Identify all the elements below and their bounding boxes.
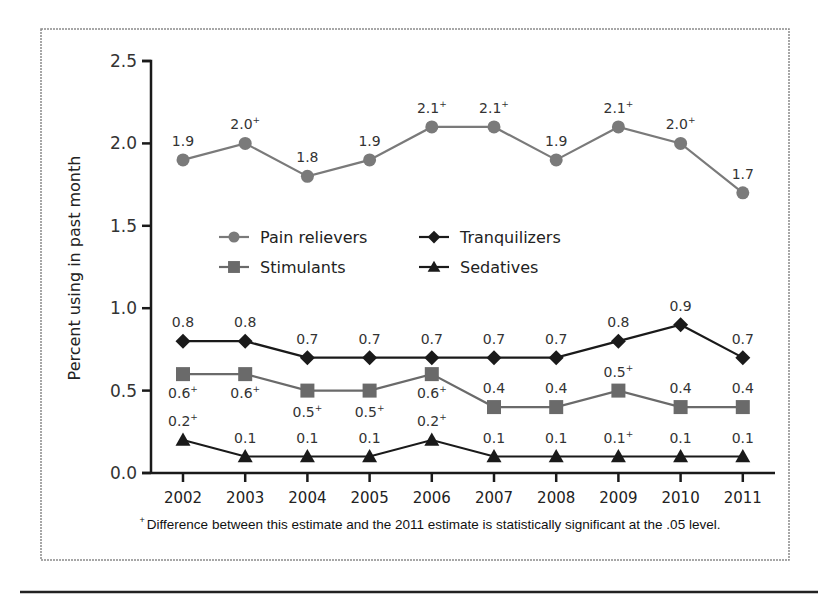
diamond-marker-icon (362, 350, 377, 365)
diamond-marker-icon (424, 350, 439, 365)
data-label: 0.5+ (355, 403, 385, 420)
x-tick-label: 2002 (164, 489, 202, 507)
circle-marker-icon (177, 153, 190, 166)
x-tick-label: 2011 (724, 489, 762, 507)
data-label: 1.9 (545, 133, 567, 149)
data-label: 0.1 (545, 430, 567, 446)
x-tick-label: 2005 (351, 489, 389, 507)
data-label: 2.0+ (666, 115, 696, 132)
footnote-symbol: + (140, 515, 145, 525)
significance-marker: + (439, 412, 447, 422)
series-pain-relievers (177, 120, 750, 199)
significance-marker: + (688, 115, 696, 125)
data-label: 0.7 (483, 331, 505, 347)
x-tick-label: 2004 (288, 489, 326, 507)
x-tick-label: 2008 (537, 489, 575, 507)
series-line (183, 440, 743, 456)
footnote-text: Difference between this estimate and the… (147, 517, 721, 532)
data-label: 1.8 (296, 149, 318, 165)
square-marker-icon (674, 400, 688, 414)
triangle-marker-icon (424, 433, 439, 446)
significance-marker: + (190, 384, 198, 394)
series-sedatives (176, 433, 751, 463)
square-marker-icon (363, 384, 377, 398)
data-label: 0.5+ (603, 363, 633, 380)
y-tick-label: 1.0 (110, 298, 137, 318)
data-label: 0.4 (483, 380, 505, 396)
data-label: 1.9 (172, 133, 194, 149)
data-label: 0.4 (669, 380, 691, 396)
circle-marker-icon (550, 153, 563, 166)
data-label: 2.0+ (230, 115, 260, 132)
y-tick-label: 1.5 (110, 216, 137, 236)
diamond-marker-icon (611, 334, 626, 349)
data-label: 0.7 (545, 331, 567, 347)
x-axis: 2002200320042005200620072008200920102011 (142, 473, 775, 507)
diamond-marker-icon (428, 231, 441, 244)
circle-marker-icon (736, 186, 749, 199)
data-label: 0.2+ (417, 412, 447, 429)
significance-marker: + (501, 99, 509, 109)
legend-item-tranquilizers: Tranquilizers (419, 228, 561, 247)
y-tick-label: 2.0 (110, 133, 137, 153)
y-tick-label: 0.0 (110, 463, 137, 483)
square-marker-icon (228, 261, 240, 273)
data-label: 0.1 (234, 430, 256, 446)
diamond-marker-icon (487, 350, 502, 365)
series-tranquilizers (176, 317, 751, 365)
triangle-marker-icon (176, 433, 191, 446)
data-label: 0.1 (669, 430, 691, 446)
data-label: 0.7 (732, 331, 754, 347)
y-tick-label: 0.5 (110, 381, 137, 401)
circle-marker-icon (612, 120, 625, 133)
significance-marker: + (253, 115, 261, 125)
y-axis-label: Percent using in past month (65, 156, 84, 381)
square-marker-icon (300, 384, 314, 398)
series-line (183, 374, 743, 407)
data-label: 0.4 (732, 380, 754, 396)
data-label: 0.7 (421, 331, 443, 347)
legend-item-sedatives: Sedatives (419, 258, 538, 277)
y-axis: 0.00.51.01.52.02.5 (110, 51, 151, 483)
data-label: 0.1 (358, 430, 380, 446)
y-tick-label: 2.5 (110, 51, 137, 71)
diamond-marker-icon (735, 350, 750, 365)
data-label: 0.1 (483, 430, 505, 446)
data-label: 0.6+ (230, 384, 260, 401)
data-label: 0.1 (732, 430, 754, 446)
diamond-marker-icon (300, 350, 315, 365)
x-tick-label: 2010 (662, 489, 700, 507)
circle-marker-icon (363, 153, 376, 166)
square-marker-icon (736, 400, 750, 414)
legend-label: Stimulants (260, 258, 346, 277)
data-label: 0.8 (607, 314, 629, 330)
x-tick-label: 2007 (475, 489, 513, 507)
footnote: +Difference between this estimate and th… (140, 515, 721, 532)
x-tick-label: 2006 (413, 489, 451, 507)
legend-item-stimulants: Stimulants (219, 258, 346, 277)
data-label: 0.1 (296, 430, 318, 446)
square-marker-icon (611, 384, 625, 398)
legend-item-pain-relievers: Pain relievers (219, 228, 367, 247)
circle-marker-icon (228, 231, 239, 242)
series-line (183, 325, 743, 358)
diamond-marker-icon (673, 317, 688, 332)
circle-marker-icon (239, 137, 252, 150)
circle-marker-icon (425, 120, 438, 133)
data-label: 2.1+ (417, 99, 447, 116)
significance-marker: + (439, 99, 447, 109)
data-label: 0.4 (545, 380, 567, 396)
chart-frame (41, 29, 789, 560)
significance-marker: + (626, 363, 634, 373)
data-label: 2.1+ (603, 99, 633, 116)
series-stimulants (176, 367, 750, 414)
data-label: 0.9 (669, 298, 691, 314)
circle-marker-icon (674, 137, 687, 150)
circle-marker-icon (488, 120, 501, 133)
data-label: 0.8 (234, 314, 256, 330)
legend: Pain relieversTranquilizersStimulantsSed… (219, 228, 561, 277)
significance-marker: + (377, 403, 385, 413)
data-label: 0.7 (296, 331, 318, 347)
data-label: 2.1+ (479, 99, 509, 116)
series-line (183, 127, 743, 193)
